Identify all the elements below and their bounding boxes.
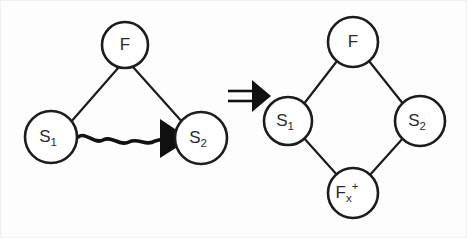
double-arrow	[228, 80, 271, 112]
node-label-F-left: F	[120, 35, 130, 54]
edge-F-to-S2-right	[369, 61, 404, 105]
node-S1-right[interactable]: S1	[264, 97, 312, 145]
figure-canvas: F S1 S2	[0, 0, 467, 238]
edge-S2-to-Fx-right	[369, 137, 404, 176]
edge-F-to-S1-right	[303, 61, 337, 105]
right-hand-side-graph: F S1 S2 Fx+	[264, 17, 445, 218]
node-Fx-plus-right[interactable]: Fx+	[328, 168, 378, 218]
node-S1-left[interactable]: S1	[25, 111, 77, 163]
edge-F-to-S1	[70, 67, 119, 123]
node-S2-right[interactable]: S2	[395, 96, 445, 146]
node-F-right[interactable]: F	[328, 17, 378, 67]
graph-rewrite-diagram: F S1 S2	[0, 0, 467, 238]
edge-S1-to-S2-wavy	[78, 135, 163, 143]
node-S2-left[interactable]: S2	[175, 112, 227, 164]
edge-S1-to-Fx-right	[303, 137, 338, 176]
node-F-left[interactable]: F	[102, 22, 148, 68]
left-hand-side-graph: F S1 S2	[25, 22, 227, 164]
edge-F-to-S2	[133, 67, 184, 124]
node-label-F-right: F	[348, 32, 358, 51]
